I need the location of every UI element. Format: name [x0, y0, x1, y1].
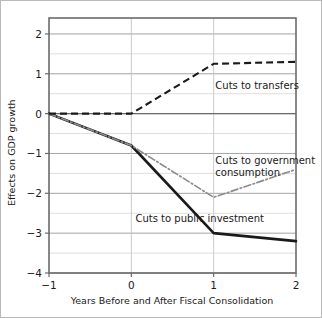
y-tick-label: −3 — [27, 227, 42, 239]
y-tick-label: −2 — [27, 187, 42, 199]
y-axis-tick-labels: 210−1−2−3−4 — [27, 28, 43, 279]
x-axis-title: Years Before and After Fiscal Consolidat… — [70, 295, 274, 306]
chart-figure: 210−1−2−3−4 −1012 Effects on GDP growth … — [0, 0, 322, 318]
y-axis-title: Effects on GDP growth — [6, 99, 17, 206]
series-annotation-cuts-to-transfers: Cuts to transfers — [215, 80, 299, 91]
series-annotation-cuts-to-government-consumption-line2: consumption — [215, 167, 280, 178]
x-tick-label: 1 — [210, 279, 217, 291]
x-tick-label: −1 — [41, 279, 56, 291]
plot-area-background — [49, 18, 296, 273]
x-tick-label: 2 — [293, 279, 300, 291]
y-tick-label: 0 — [35, 108, 42, 120]
y-tick-label: −4 — [27, 267, 43, 279]
line-chart: 210−1−2−3−4 −1012 Effects on GDP growth … — [1, 1, 322, 318]
series-annotation-cuts-to-government-consumption-line1: Cuts to government — [215, 155, 315, 166]
x-axis-tick-labels: −1012 — [41, 279, 299, 291]
y-tick-label: 1 — [35, 68, 42, 80]
y-tick-label: −1 — [27, 147, 42, 159]
x-tick-label: 0 — [128, 279, 135, 291]
y-tick-label: 2 — [35, 28, 42, 40]
series-annotation-cuts-to-public-investment: Cuts to public investment — [135, 213, 264, 224]
